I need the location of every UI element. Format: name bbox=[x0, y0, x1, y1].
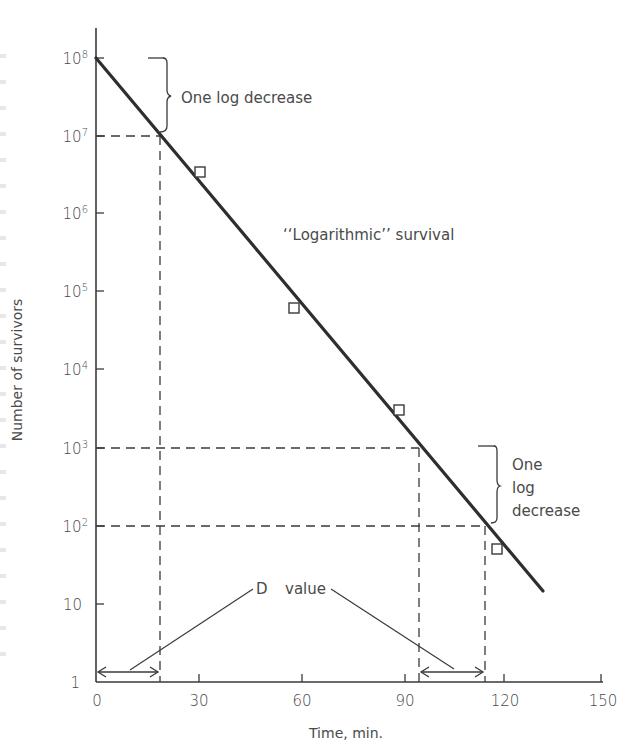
brace-bottom bbox=[478, 446, 500, 523]
curve-label: ‘‘Logarithmic’’ survival bbox=[283, 226, 454, 244]
y-tick-1e2: 102 bbox=[63, 517, 88, 536]
y-tick-1e7: 107 bbox=[63, 127, 88, 146]
brace-bottom-label-line3: decrease bbox=[512, 502, 580, 520]
x-tick-labels: 0 30 60 90 120 150 bbox=[92, 692, 617, 710]
y-tick-1e5: 105 bbox=[63, 282, 88, 301]
d-value-word: value bbox=[285, 580, 326, 598]
survival-line bbox=[96, 58, 543, 591]
y-tick-1e4: 104 bbox=[63, 360, 88, 379]
x-tick-90: 90 bbox=[395, 692, 414, 710]
data-point-88min bbox=[394, 405, 404, 415]
x-ticks bbox=[199, 674, 601, 682]
y-tick-1e3: 103 bbox=[63, 439, 88, 458]
data-point-117min bbox=[492, 544, 502, 554]
y-ticks bbox=[96, 58, 104, 604]
x-tick-60: 60 bbox=[292, 692, 311, 710]
data-point-30min bbox=[195, 167, 205, 177]
d-value-arrows bbox=[98, 667, 483, 677]
brace-bottom-label-line1: One bbox=[512, 456, 543, 474]
x-tick-30: 30 bbox=[189, 692, 208, 710]
brace-top-label: One log decrease bbox=[181, 89, 312, 107]
axes bbox=[96, 28, 603, 682]
brace-bottom-label-line2: log bbox=[512, 479, 535, 497]
y-tick-10: 10 bbox=[63, 596, 82, 614]
survival-chart: 108 107 106 105 104 103 102 10 1 0 30 60… bbox=[0, 0, 642, 753]
data-point-58min bbox=[289, 303, 299, 313]
y-axis-title: Number of survivors bbox=[9, 299, 25, 442]
brace-top bbox=[148, 58, 171, 132]
x-tick-150: 150 bbox=[589, 692, 618, 710]
y-tick-1e6: 106 bbox=[63, 204, 88, 223]
x-tick-120: 120 bbox=[491, 692, 520, 710]
y-tick-labels: 108 107 106 105 104 103 102 10 1 bbox=[63, 49, 88, 692]
x-tick-0: 0 bbox=[92, 692, 102, 710]
y-tick-1: 1 bbox=[70, 674, 80, 692]
reference-lines bbox=[96, 136, 485, 682]
x-axis-title: Time, min. bbox=[308, 725, 383, 741]
y-tick-1e8: 108 bbox=[63, 49, 88, 68]
d-value-pointers bbox=[130, 589, 454, 670]
d-value-letter: D bbox=[256, 580, 268, 598]
